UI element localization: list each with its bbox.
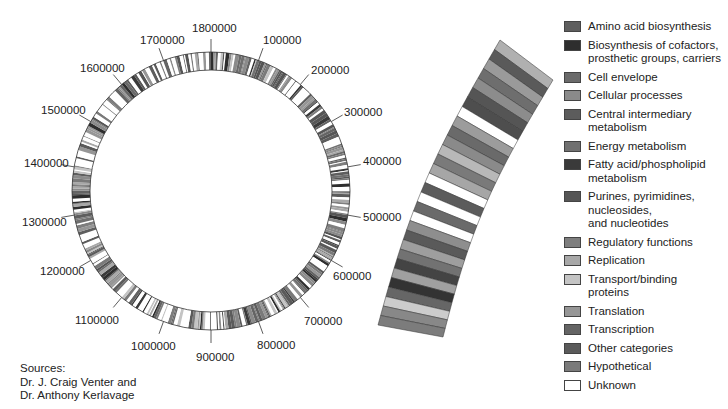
legend-swatch [564,90,581,101]
legend-swatch [564,274,581,285]
tick-leader [331,261,342,268]
legend-label: Unknown [588,379,636,393]
legend-label: Amino acid biosynthesis [588,20,711,34]
legend-item: Biosynthesis of cofactors, prosthetic gr… [564,39,728,66]
tick-label: 1300000 [22,217,67,229]
legend-label: Biosynthesis of cofactors, prosthetic gr… [588,39,721,66]
legend-label: Transcription [588,323,654,337]
tick-label: 1600000 [80,63,125,75]
tick-label: 1100000 [75,315,119,327]
legend-swatch [564,141,581,152]
legend-swatch [564,191,581,202]
tick-leader [348,165,361,167]
tick-leader [331,115,342,122]
tick-leader [348,215,361,217]
legend-swatch [564,237,581,248]
legend-label: Central intermediary metabolism [588,108,692,135]
tick-leader [259,322,263,334]
tick-label: 100000 [263,35,301,47]
tick-label: 1700000 [140,35,185,47]
sources-author-1: Dr. J. Craig Venter and [20,376,136,390]
legend-swatch [564,21,581,32]
legend-item: Other categories [564,342,728,356]
legend-item: Cell envelope [564,71,728,85]
tick-label: 500000 [363,212,401,224]
legend-item: Fatty acid/phospholipid metabolism [564,158,728,185]
sources-heading: Sources: [20,362,136,376]
tick-label: 1800000 [192,23,237,35]
legend-label: Cellular processes [588,89,683,103]
sources-author-2: Dr. Anthony Kerlavage [20,389,136,403]
legend-label: Hypothetical [588,360,651,374]
legend-item: Replication [564,254,728,268]
tick-label: 1500000 [41,105,86,117]
genome-ring [72,52,350,330]
legend-swatch [564,40,581,51]
legend-label: Cell envelope [588,71,658,85]
tick-label: 700000 [304,316,342,328]
legend-item: Energy metabolism [564,140,728,154]
legend-item: Hypothetical [564,360,728,374]
tick-leader [159,48,163,60]
tick-label: 400000 [363,156,401,168]
legend-swatch [564,361,581,372]
legend-swatch [564,255,581,266]
legend-swatch [564,380,581,391]
tick-label: 200000 [311,65,349,77]
tick-leader [113,297,121,307]
legend-swatch [564,306,581,317]
legend-label: Energy metabolism [588,140,686,154]
tick-leader [159,322,163,334]
legend-swatch [564,343,581,354]
tick-label: 600000 [333,271,371,283]
legend: Amino acid biosynthesisBiosynthesis of c… [564,20,728,397]
legend-item: Translation [564,305,728,319]
legend-label: Translation [588,305,644,319]
legend-item: Regulatory functions [564,236,728,250]
legend-item: Transport/binding proteins [564,273,728,300]
legend-item: Purines, pyrimidines, nucleosides, and n… [564,190,728,231]
tick-leader [300,297,308,307]
tick-label: 800000 [257,340,295,352]
legend-label: Purines, pyrimidines, nucleosides, and n… [588,190,695,231]
tick-leader [259,48,263,60]
tick-label: 1200000 [40,266,85,278]
sources-note: Sources: Dr. J. Craig Venter and Dr. Ant… [20,362,136,403]
legend-label: Transport/binding proteins [588,273,677,300]
legend-item: Cellular processes [564,89,728,103]
legend-swatch [564,324,581,335]
legend-label: Regulatory functions [588,236,693,250]
zoomed-segment [378,40,553,337]
tick-label: 1400000 [24,158,69,170]
legend-item: Transcription [564,323,728,337]
legend-swatch [564,72,581,83]
legend-item: Unknown [564,379,728,393]
legend-label: Replication [588,254,645,268]
legend-item: Central intermediary metabolism [564,108,728,135]
legend-swatch [564,109,581,120]
tick-label: 300000 [344,107,382,119]
legend-swatch [564,159,581,170]
tick-label: 900000 [196,352,234,364]
genome-map: 1800000100000200000300000400000500000600… [0,0,728,409]
legend-label: Other categories [588,342,673,356]
tick-leader [300,75,308,85]
legend-item: Amino acid biosynthesis [564,20,728,34]
legend-label: Fatty acid/phospholipid metabolism [588,158,706,185]
tick-label: 1000000 [131,341,176,353]
tick-leader [113,75,121,85]
